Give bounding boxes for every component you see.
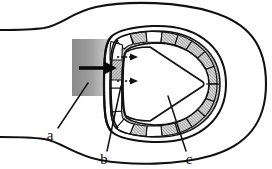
label-b: b bbox=[100, 151, 108, 167]
label-a: a bbox=[47, 127, 54, 143]
label-c: c bbox=[186, 151, 193, 167]
diagram-canvas: a b c bbox=[0, 0, 272, 169]
